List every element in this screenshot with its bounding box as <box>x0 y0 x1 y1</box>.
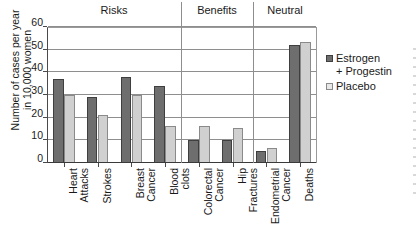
y-axis-tick-label: 50 <box>21 40 43 50</box>
legend-item: Estrogen + Progestin <box>326 52 418 77</box>
chart-legend: Estrogen + ProgestinPlacebo <box>326 52 418 96</box>
bar-group <box>222 28 244 163</box>
bar <box>98 115 109 163</box>
x-axis-category-label: Colorectal Cancer <box>203 168 225 230</box>
x-axis-category-label: Blood clots <box>169 168 191 230</box>
bar <box>154 86 165 163</box>
bar <box>267 148 278 163</box>
plot-area <box>47 27 317 163</box>
x-axis-category-label: Hip Fractures <box>237 168 259 230</box>
bar-group <box>87 28 109 163</box>
group-header-risks: Risks <box>47 2 181 18</box>
bar-group <box>53 28 75 163</box>
bar <box>121 77 132 163</box>
legend-label: Estrogen + Progestin <box>336 52 392 77</box>
x-axis-category-label: Strokes <box>102 168 113 230</box>
gridline <box>48 26 316 27</box>
bar <box>300 42 311 163</box>
legend-label: Placebo <box>336 80 376 93</box>
legend-swatch-icon <box>326 55 333 62</box>
group-header-benefits: Benefits <box>181 2 253 18</box>
y-axis-tick-label: 30 <box>21 85 43 95</box>
plot-inner <box>48 28 316 163</box>
bar-group <box>188 28 210 163</box>
bar <box>53 79 64 163</box>
bar <box>233 128 244 163</box>
x-axis-category-label: Heart Attacks <box>68 168 90 230</box>
x-axis-tick-mark <box>165 163 166 167</box>
bar <box>188 140 199 163</box>
x-axis-tick-mark <box>199 163 200 167</box>
x-axis-category-label: Endometrial Cancer <box>270 168 292 230</box>
x-axis-tick-mark <box>64 163 65 167</box>
bar <box>222 140 233 163</box>
y-axis-tick-label: 10 <box>21 130 43 140</box>
x-axis-category-label: Deaths <box>304 168 315 230</box>
bar <box>165 126 176 163</box>
legend-swatch-icon <box>326 83 333 90</box>
section-divider-benefits-neutral <box>253 2 254 163</box>
legend-item: Placebo <box>326 80 418 93</box>
bar <box>87 97 98 163</box>
y-axis-tick-label: 0 <box>21 153 43 163</box>
bar <box>289 45 300 163</box>
x-axis-tick-mark <box>300 163 301 167</box>
x-axis-tick-mark <box>233 163 234 167</box>
page-edge-artifact <box>413 48 416 198</box>
bar-group <box>121 28 143 163</box>
x-axis-category-label: Breast Cancer <box>135 168 157 230</box>
bar-group <box>289 28 311 163</box>
x-axis-tick-mark <box>266 163 267 167</box>
x-axis-tick-mark <box>98 163 99 167</box>
bar-chart-figure: Risks Benefits Neutral Number of cases p… <box>0 0 418 233</box>
y-axis-tick-label: 60 <box>21 17 43 27</box>
bar <box>64 95 75 163</box>
y-axis-tick-label: 40 <box>21 62 43 72</box>
x-axis-tick-mark <box>131 163 132 167</box>
section-divider-risks-benefits <box>181 2 182 163</box>
y-axis-tick-labels: 0102030405060 <box>19 27 43 163</box>
bar <box>132 95 143 163</box>
bar <box>199 126 210 163</box>
bar-group <box>154 28 176 163</box>
y-axis-tick-label: 20 <box>21 108 43 118</box>
x-axis-category-labels: Heart AttacksStrokesBreast CancerBlood c… <box>47 168 317 233</box>
bar-group <box>256 28 278 163</box>
group-header-neutral: Neutral <box>253 2 317 18</box>
